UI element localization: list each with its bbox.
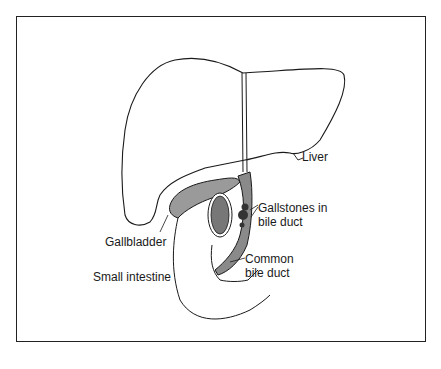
label-small-intestine: Small intestine (93, 270, 171, 284)
label-common-duct-line1: Common (245, 252, 294, 266)
label-common-duct-line2: bile duct (245, 266, 290, 280)
label-gallbladder: Gallbladder (105, 235, 166, 249)
anatomy-illustration (0, 0, 441, 369)
label-liver: Liver (302, 150, 328, 164)
label-gallstones-line1: Gallstones in (258, 201, 327, 215)
label-gallstones-line2: bile duct (258, 215, 303, 229)
